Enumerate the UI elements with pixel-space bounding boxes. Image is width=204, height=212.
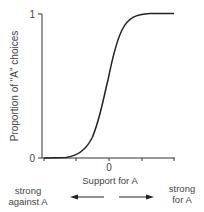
y-tick-label-0: 0: [29, 153, 35, 164]
left-annotation-line1: strong: [15, 185, 41, 196]
x-tick-label-zero: 0: [106, 162, 112, 173]
left-arrow-icon: [70, 195, 104, 200]
x-axis-label: Support for A: [82, 175, 138, 186]
left-annotation-line2: against A: [8, 196, 48, 207]
right-arrow-icon: [119, 195, 154, 200]
right-annotation-line2: for A: [172, 194, 192, 205]
y-tick-label-1: 1: [29, 9, 35, 20]
sigmoid-curve: [44, 14, 174, 159]
y-axis-label: Proportion of "A" choices: [9, 31, 20, 142]
right-annotation-line1: strong: [169, 183, 195, 194]
chart: 1 0 0 Proportion of "A" choices Support …: [0, 0, 204, 212]
